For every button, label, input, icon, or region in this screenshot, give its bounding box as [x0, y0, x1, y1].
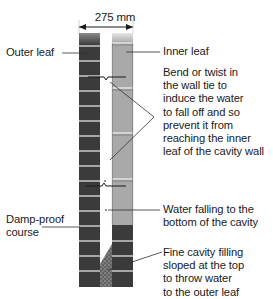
cavity-fill — [100, 244, 112, 287]
cavity-wall-diagram: 275 mm Outer leaf Inner leaf Bend or twi… — [0, 0, 273, 299]
label-inner-leaf: Inner leaf — [163, 45, 209, 58]
label-water: Water falling to the bottom of the cavit… — [163, 203, 258, 229]
label-cavity-fill: Fine cavity filling sloped at the top to… — [163, 246, 244, 299]
outer-leaf — [79, 33, 100, 287]
dimension-label: 275 mm — [90, 11, 140, 23]
label-wall-tie: Bend or twist in the wall tie to induce … — [163, 66, 264, 158]
inner-leaf — [112, 33, 133, 287]
label-dpc: Damp-proof course — [6, 213, 64, 239]
label-outer-leaf: Outer leaf — [6, 46, 54, 59]
